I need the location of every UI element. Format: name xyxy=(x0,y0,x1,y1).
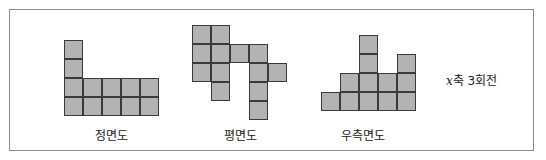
cube-cell xyxy=(378,73,397,92)
rotation-note: x축 3회전 xyxy=(446,71,497,88)
cube-cell xyxy=(64,78,83,97)
cube-cell xyxy=(359,73,378,92)
cube-cell xyxy=(230,44,249,63)
cube-cell xyxy=(64,40,83,59)
cube-cell xyxy=(378,92,397,111)
cube-cell xyxy=(83,78,102,97)
cube-cell xyxy=(211,44,230,63)
cube-cell xyxy=(249,82,268,101)
cube-cell xyxy=(121,97,140,116)
cube-cell xyxy=(140,78,159,97)
front-view-label: 정면도 xyxy=(95,126,128,143)
cube-cell xyxy=(192,25,211,44)
cube-cell xyxy=(359,54,378,73)
cube-cell xyxy=(121,78,140,97)
cube-cell xyxy=(102,78,121,97)
cube-cell xyxy=(359,35,378,54)
cube-cell xyxy=(192,44,211,63)
cube-cell xyxy=(249,101,268,120)
axis-symbol: x xyxy=(446,74,453,88)
cube-cell xyxy=(211,82,230,101)
cube-cell xyxy=(211,25,230,44)
cube-cell xyxy=(102,97,121,116)
cube-cell xyxy=(321,92,340,111)
cube-cell xyxy=(64,97,83,116)
cube-cell xyxy=(340,92,359,111)
cube-cell xyxy=(397,92,416,111)
rotation-text: 축 3회전 xyxy=(453,74,497,88)
right-view-label: 우측면도 xyxy=(341,126,385,143)
cube-cell xyxy=(192,63,211,82)
cube-cell xyxy=(249,44,268,63)
cube-cell xyxy=(268,63,287,82)
cube-cell xyxy=(340,73,359,92)
cube-cell xyxy=(397,73,416,92)
cube-cell xyxy=(359,92,378,111)
cube-cell xyxy=(249,63,268,82)
cube-cell xyxy=(64,59,83,78)
cube-cell xyxy=(83,97,102,116)
cube-cell xyxy=(140,97,159,116)
top-view-label: 평면도 xyxy=(224,126,257,143)
cube-cell xyxy=(397,54,416,73)
cube-cell xyxy=(211,63,230,82)
